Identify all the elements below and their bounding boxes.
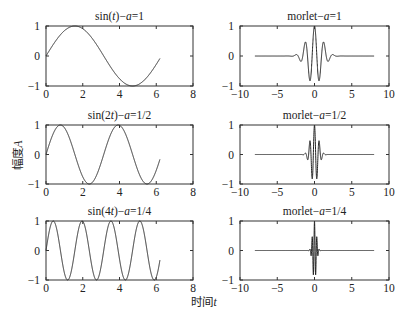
chart-title-5: morlet−a=1/4 [283, 205, 347, 217]
data-line-0 [46, 26, 160, 86]
x-tick-label: 0 [312, 282, 318, 294]
chart-title-3: morlet−a=1/2 [283, 109, 347, 121]
x-tick-label: 8 [190, 282, 196, 294]
chart-title-2: sin(2t)−a=1/2 [88, 109, 152, 122]
y-tick-label: 0 [34, 50, 40, 62]
data-line-3 [255, 125, 374, 179]
x-tick-label: 6 [153, 88, 159, 100]
x-tick-label: 10 [383, 282, 395, 294]
x-tick-label: 8 [190, 186, 196, 198]
y-tick-label: −1 [222, 80, 234, 92]
chart-title-0: sin(t)−a=1 [95, 10, 144, 23]
x-tick-label: 0 [312, 88, 318, 100]
data-line-1 [255, 26, 374, 81]
x-tick-label: 10 [383, 186, 395, 198]
x-tick-label: 0 [43, 186, 49, 198]
x-tick-label: 0 [43, 282, 49, 294]
y-tick-label: 0 [34, 149, 40, 161]
x-tick-label: 8 [190, 88, 196, 100]
x-tick-label: 10 [383, 88, 395, 100]
y-axis-label: 幅度A [11, 140, 24, 170]
y-tick-label: 0 [228, 50, 234, 62]
x-tick-label: 5 [349, 186, 355, 198]
data-line-5 [255, 221, 374, 275]
y-tick-label: 1 [34, 119, 40, 131]
y-tick-label: −1 [28, 178, 40, 190]
x-tick-label: 2 [80, 186, 86, 198]
y-tick-label: −1 [222, 178, 234, 190]
x-tick-label: 4 [117, 282, 123, 294]
y-tick-label: 1 [228, 119, 234, 131]
x-tick-label: 4 [117, 186, 123, 198]
x-tick-label: 2 [80, 88, 86, 100]
y-tick-label: 0 [228, 245, 234, 257]
y-tick-label: 1 [34, 20, 40, 32]
x-tick-label: 6 [153, 282, 159, 294]
x-tick-label: 5 [349, 88, 355, 100]
x-tick-label: 5 [349, 282, 355, 294]
x-tick-label: 0 [43, 88, 49, 100]
figure: sin(t)−a=102468−101morlet−a=1−10−50510−1… [0, 0, 408, 326]
axes-box-0 [46, 26, 193, 86]
y-tick-label: 1 [228, 215, 234, 227]
x-tick-label: 6 [153, 186, 159, 198]
y-tick-label: −1 [28, 274, 40, 286]
x-tick-label: 4 [117, 88, 123, 100]
x-tick-label: −5 [271, 88, 283, 100]
chart-title-1: morlet−a=1 [287, 10, 342, 22]
y-tick-label: 0 [228, 149, 234, 161]
y-tick-label: −1 [222, 274, 234, 286]
data-line-2 [46, 125, 160, 184]
chart-title-4: sin(4t)−a=1/4 [88, 205, 152, 218]
x-tick-label: 0 [312, 186, 318, 198]
x-axis-label: 时间t [191, 296, 217, 308]
y-tick-label: −1 [28, 80, 40, 92]
data-line-4 [46, 221, 160, 280]
x-tick-label: −5 [271, 282, 283, 294]
y-tick-label: 0 [34, 245, 40, 257]
y-tick-label: 1 [228, 20, 234, 32]
x-tick-label: 2 [80, 282, 86, 294]
axes-box-4 [46, 221, 193, 280]
x-tick-label: −5 [271, 186, 283, 198]
y-tick-label: 1 [34, 215, 40, 227]
